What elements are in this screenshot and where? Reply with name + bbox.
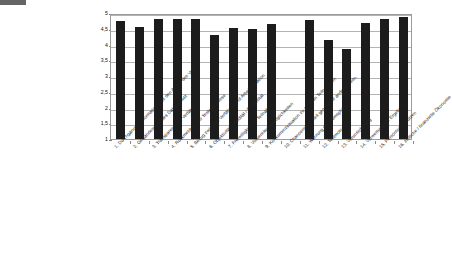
x-axis-tick-mark <box>338 141 339 144</box>
bar <box>135 27 144 139</box>
y-axis-tick-label: 1 <box>92 137 108 142</box>
x-axis-tick-mark <box>262 141 263 144</box>
bar <box>361 23 370 139</box>
y-axis-tick-label: 2 <box>92 106 108 111</box>
bar <box>267 24 276 139</box>
bar <box>248 29 257 139</box>
x-axis-tick-mark <box>224 141 225 144</box>
bar <box>305 20 314 139</box>
y-axis-tick-label: 3,5 <box>92 59 108 64</box>
gridline <box>111 15 411 16</box>
y-axis-tick-label: 4 <box>92 43 108 48</box>
x-axis-tick-mark <box>130 141 131 144</box>
y-axis-tick-mark <box>109 140 112 141</box>
y-axis-tick-label: 1,5 <box>92 122 108 127</box>
bar <box>324 40 333 139</box>
x-axis-tick-mark <box>205 141 206 144</box>
x-axis-tick-mark <box>413 141 414 144</box>
y-axis-tick-label: 5 <box>92 11 108 16</box>
bar <box>380 19 389 139</box>
bar <box>154 19 163 139</box>
x-axis-tick-mark <box>356 141 357 144</box>
x-axis-tick-mark <box>187 141 188 144</box>
y-axis-tick-label: 4,5 <box>92 27 108 32</box>
x-axis-tick-mark <box>300 141 301 144</box>
bar <box>191 19 200 139</box>
y-axis-tick-label: 2,5 <box>92 90 108 95</box>
x-axis-tick-mark <box>394 141 395 144</box>
bar <box>173 19 182 139</box>
y-axis-tick-label: 3 <box>92 74 108 79</box>
x-axis-tick-mark <box>149 141 150 144</box>
bar <box>229 28 238 139</box>
bar <box>210 35 219 139</box>
x-axis-tick-mark <box>375 141 376 144</box>
bar <box>116 21 125 139</box>
x-axis-tick-mark <box>281 141 282 144</box>
bar <box>342 49 351 139</box>
x-axis-tick-mark <box>168 141 169 144</box>
bar <box>399 17 408 139</box>
plot-area <box>110 14 412 140</box>
x-axis-tick-mark <box>243 141 244 144</box>
x-axis-tick-mark <box>319 141 320 144</box>
y-axis: 11,522,533,544,55 <box>92 14 108 140</box>
